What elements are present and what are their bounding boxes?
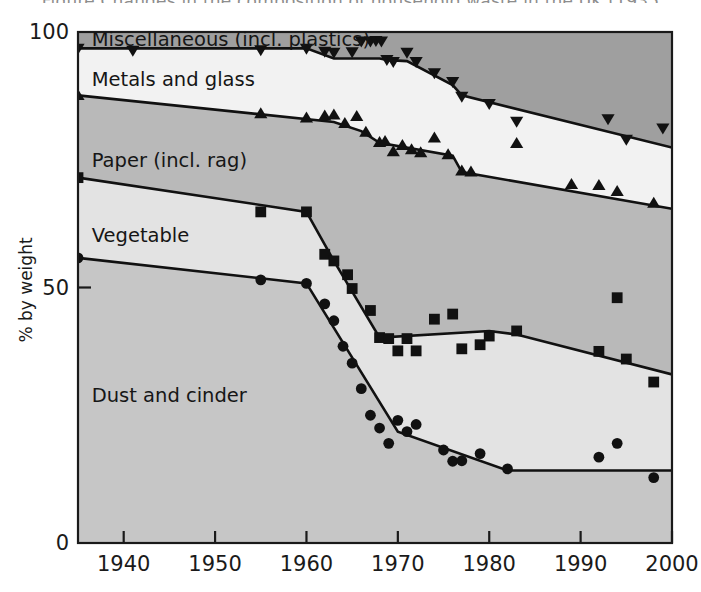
y-tick-label-100: 100 [29, 20, 69, 44]
stacked-band-fills [78, 32, 672, 543]
data-point [338, 341, 349, 352]
data-point [593, 346, 604, 357]
data-point [411, 419, 422, 430]
y-tick-label-50: 50 [42, 276, 69, 300]
data-point [502, 464, 513, 475]
band-label-metals-and-glass: Metals and glass [92, 68, 255, 91]
data-point [511, 326, 522, 337]
band-label-dust-and-cinder: Dust and cinder [92, 384, 248, 407]
data-point [383, 438, 394, 449]
data-point [429, 314, 440, 325]
data-point [319, 298, 330, 309]
data-point [301, 206, 312, 217]
y-axis-title: % by weight [16, 237, 36, 342]
data-point [612, 438, 623, 449]
data-point [301, 278, 312, 289]
x-tick-label-1980: 1980 [463, 552, 516, 576]
data-point [365, 410, 376, 421]
x-tick-label-1990: 1990 [554, 552, 607, 576]
data-point [648, 472, 659, 483]
data-point [593, 452, 604, 463]
data-point [402, 426, 413, 437]
band-label-vegetable: Vegetable [92, 224, 190, 247]
data-point [342, 269, 353, 280]
x-tick-label-1970: 1970 [371, 552, 424, 576]
data-point [347, 283, 358, 294]
data-point [255, 274, 266, 285]
data-point [621, 354, 632, 365]
data-point [347, 358, 358, 369]
data-point [365, 305, 376, 316]
data-point [438, 445, 449, 456]
data-point [648, 377, 659, 388]
data-point [255, 206, 266, 217]
band-label-paper: Paper (incl. rag) [92, 149, 247, 172]
data-point [328, 256, 339, 267]
figure-root: Figure Changes in the composition of hou… [0, 0, 701, 592]
data-point [484, 331, 495, 342]
data-point [475, 448, 486, 459]
x-tick-label-1940: 1940 [97, 552, 150, 576]
x-tick-label-2000: 2000 [645, 552, 698, 576]
data-point [356, 383, 367, 394]
data-point [374, 423, 385, 434]
data-point [383, 333, 394, 344]
data-point [612, 292, 623, 303]
data-point [392, 415, 403, 426]
x-tick-label-1960: 1960 [280, 552, 333, 576]
data-point [411, 345, 422, 356]
waste-composition-chart: 1940195019601970198019902000 050100 Misc… [0, 0, 701, 592]
data-point [456, 455, 467, 466]
data-point [456, 343, 467, 354]
y-tick-label-0: 0 [56, 531, 69, 555]
data-point [447, 309, 458, 320]
data-point [402, 333, 413, 344]
data-point [392, 345, 403, 356]
x-tick-label-1950: 1950 [188, 552, 241, 576]
data-point [328, 315, 339, 326]
band-label-miscellaneous: Miscellaneous (incl. plastics) [92, 28, 370, 51]
